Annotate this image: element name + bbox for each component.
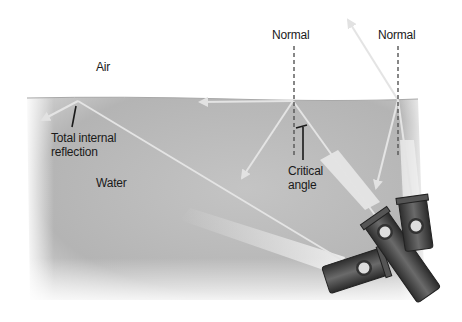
diagram-canvas — [0, 0, 462, 322]
critical-angle-label: Critical angle — [288, 164, 323, 192]
normal-label-left: Normal — [272, 28, 309, 42]
tir-label: Total internal reflection — [51, 131, 116, 159]
air-label: Air — [96, 60, 110, 74]
tir-label-line2: reflection — [51, 145, 116, 159]
normal-label-right: Normal — [378, 28, 415, 42]
critical-angle-line2: angle — [288, 178, 323, 192]
water-label: Water — [96, 176, 127, 190]
tir-label-line1: Total internal — [51, 131, 116, 145]
surface-refracted-ray — [200, 101, 293, 102]
critical-angle-line1: Critical — [288, 164, 323, 178]
